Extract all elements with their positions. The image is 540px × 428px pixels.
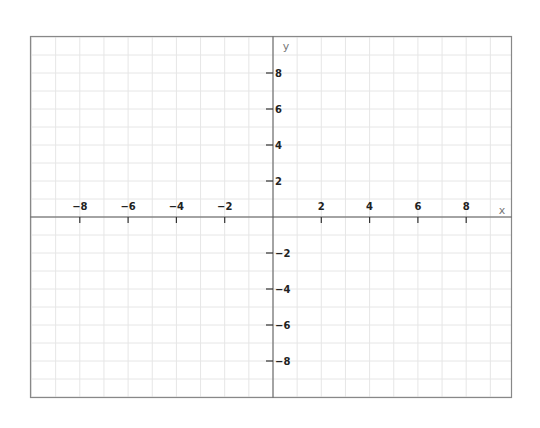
x-tick-label: −2	[217, 201, 232, 212]
y-tick-label: −2	[275, 248, 290, 259]
y-tick-label: 6	[275, 104, 282, 115]
y-axis-label: y	[283, 40, 290, 53]
x-tick-label: −8	[72, 201, 87, 212]
x-tick-label: −4	[169, 201, 184, 212]
x-axis-ticks: −8−6−4−22468	[72, 201, 470, 223]
x-tick-label: 6	[414, 201, 421, 212]
x-tick-label: 2	[318, 201, 325, 212]
y-tick-label: 4	[275, 140, 282, 151]
x-tick-label: −6	[120, 201, 135, 212]
y-tick-label: −4	[275, 284, 290, 295]
y-tick-label: 8	[275, 68, 282, 79]
x-axis-label: x	[499, 204, 506, 217]
y-tick-label: −8	[275, 356, 290, 367]
y-tick-label: −6	[275, 320, 290, 331]
x-tick-label: 8	[463, 201, 470, 212]
y-tick-label: 2	[275, 176, 282, 187]
coordinate-plane[interactable]: −8−6−4−22468 8642−2−4−6−8 x y	[0, 0, 540, 428]
x-tick-label: 4	[366, 201, 373, 212]
